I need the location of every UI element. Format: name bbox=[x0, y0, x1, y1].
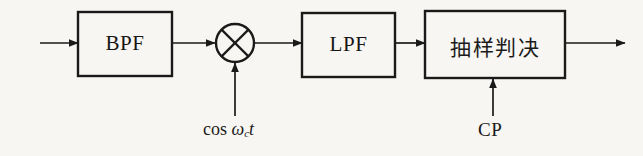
block-diagram-svg bbox=[0, 0, 643, 156]
mixer-symbol bbox=[216, 24, 254, 62]
cp-label: CP bbox=[478, 119, 502, 141]
carrier-label-cos: cos bbox=[203, 119, 227, 139]
carrier-label: cos ωct bbox=[203, 119, 254, 140]
block-label-bpf: BPF bbox=[78, 31, 172, 56]
block-label-decision: 抽样判决 bbox=[425, 31, 565, 61]
figure-canvas: BPF LPF 抽样判决 cos ωct CP bbox=[0, 0, 643, 156]
block-label-lpf: LPF bbox=[302, 32, 395, 57]
carrier-label-omega: ω bbox=[232, 119, 245, 139]
carrier-label-time-var: t bbox=[249, 119, 254, 139]
